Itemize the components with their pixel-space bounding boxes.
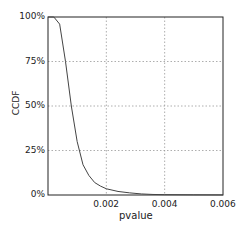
- y-axis-label: CCDF: [11, 91, 21, 116]
- x-tick-label: 0.006: [210, 199, 236, 209]
- x-axis-label: pvalue: [119, 210, 153, 221]
- x-tick-label: 0.002: [93, 199, 119, 209]
- y-tick-label: 75%: [25, 56, 45, 66]
- y-tick-label: 0%: [31, 189, 45, 199]
- y-tick-label: 100%: [19, 11, 45, 21]
- y-tick-label: 25%: [25, 145, 45, 155]
- y-tick-label: 50%: [25, 100, 45, 110]
- x-tick-label: 0.004: [152, 199, 178, 209]
